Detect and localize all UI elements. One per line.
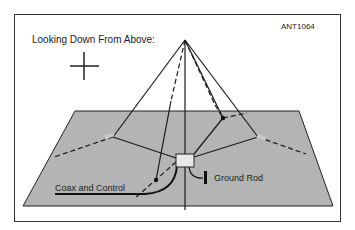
plus-icon xyxy=(70,52,99,80)
diagram-id: ANT1064 xyxy=(281,22,315,31)
coax-label: Coax and Control xyxy=(55,183,125,193)
junction-dot xyxy=(221,116,225,120)
ground-rod xyxy=(204,171,207,184)
junction-dot xyxy=(154,178,158,182)
control-box xyxy=(176,154,194,167)
diagram-title: Looking Down From Above: xyxy=(32,34,155,45)
ground-rod-label: Ground Rod xyxy=(214,173,263,183)
